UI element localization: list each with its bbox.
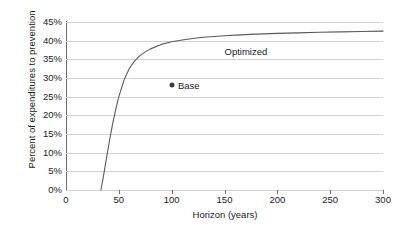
x-axis-title: Horizon (years) — [66, 209, 384, 220]
x-axis-tick-label: 300 — [375, 195, 391, 205]
y-axis-tick-label: 20% — [28, 111, 62, 121]
y-axis-tick-label: 35% — [28, 55, 62, 65]
y-axis-tick-label: 10% — [28, 148, 62, 158]
x-axis-tick-label: 150 — [217, 195, 233, 205]
y-axis-title-wrapper: Percent of expenditures to prevention — [0, 0, 24, 212]
y-axis-tick-label: 40% — [28, 36, 62, 46]
x-axis-tick-label: 200 — [269, 195, 285, 205]
x-axis-tick-label: 100 — [164, 195, 180, 205]
y-axis-tick-label: 30% — [28, 73, 62, 83]
y-axis-tick-label: 15% — [28, 129, 62, 139]
chart-figure: Percent of expenditures to prevention 0%… — [0, 0, 397, 233]
y-axis-tick-labels: 0%5%10%15%20%25%30%35%40%45% — [26, 0, 62, 233]
optimized-series-label: Optimized — [225, 47, 268, 57]
y-axis-tick-label: 0% — [28, 185, 62, 195]
y-axis-tick-label: 25% — [28, 92, 62, 102]
x-axis-tick-label: 50 — [114, 195, 125, 205]
x-axis-tick-label: 250 — [322, 195, 338, 205]
y-axis-tick-label: 45% — [28, 17, 62, 27]
plot-area: Base Optimized — [66, 22, 383, 190]
x-axis-tick-label: 0 — [63, 195, 68, 205]
y-axis-tick-label: 5% — [28, 167, 62, 177]
base-data-point — [169, 83, 174, 88]
base-series-label: Base — [178, 81, 200, 91]
